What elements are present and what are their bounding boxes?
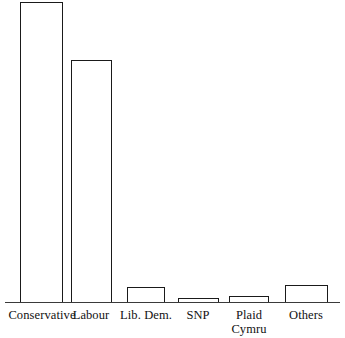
plot-area: Conservative Labour Lib. Dem. SNP Plaid … <box>0 0 345 338</box>
bar-conservative <box>20 2 63 303</box>
bar-lib-dem <box>127 287 165 303</box>
x-tick-label-plaid-cymru: Plaid Cymru <box>219 308 279 336</box>
bar-chart-figure: Conservative Labour Lib. Dem. SNP Plaid … <box>0 0 345 338</box>
bar-labour <box>71 60 112 303</box>
x-axis-line <box>5 302 340 303</box>
x-tick-label-others: Others <box>276 308 336 322</box>
bar-others <box>285 285 328 303</box>
